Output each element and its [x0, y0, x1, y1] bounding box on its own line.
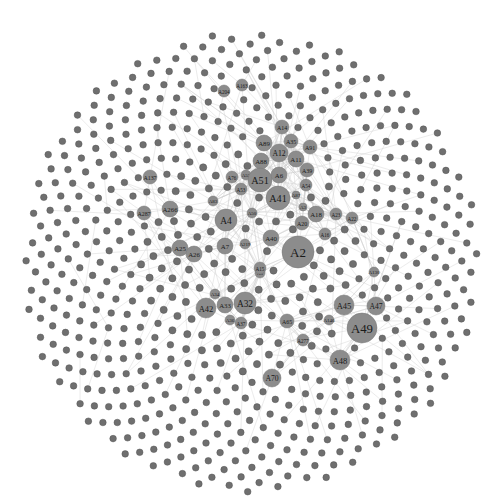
- graph-node-a11[interactable]: A11: [288, 151, 304, 167]
- graph-node[interactable]: [361, 374, 368, 381]
- graph-node[interactable]: [178, 173, 185, 180]
- graph-node[interactable]: [418, 343, 425, 350]
- graph-node-a34[interactable]: A34: [210, 289, 220, 299]
- graph-node-a219[interactable]: A219: [239, 239, 251, 249]
- graph-node[interactable]: [180, 43, 187, 50]
- graph-node[interactable]: [124, 311, 131, 318]
- graph-node[interactable]: [275, 102, 282, 109]
- graph-node[interactable]: [357, 157, 364, 164]
- graph-node[interactable]: [224, 183, 231, 190]
- graph-node[interactable]: [284, 447, 291, 454]
- graph-node[interactable]: [105, 356, 112, 363]
- graph-node[interactable]: [247, 41, 254, 48]
- graph-node[interactable]: [246, 118, 253, 125]
- graph-node[interactable]: [211, 85, 218, 92]
- graph-node[interactable]: [322, 197, 329, 204]
- graph-node[interactable]: [157, 95, 164, 102]
- graph-node[interactable]: [387, 200, 394, 207]
- graph-node[interactable]: [105, 325, 112, 332]
- graph-node[interactable]: [416, 283, 423, 290]
- graph-node[interactable]: [328, 256, 335, 263]
- graph-node[interactable]: [65, 166, 72, 173]
- graph-node[interactable]: [342, 162, 349, 169]
- graph-node[interactable]: [389, 170, 396, 177]
- graph-node[interactable]: [179, 417, 186, 424]
- graph-node[interactable]: [148, 297, 155, 304]
- graph-node[interactable]: [383, 215, 390, 222]
- graph-node[interactable]: [97, 259, 104, 266]
- graph-node[interactable]: [37, 315, 44, 322]
- graph-node[interactable]: [425, 269, 432, 276]
- graph-node[interactable]: [166, 424, 173, 431]
- graph-node[interactable]: [246, 417, 253, 424]
- graph-node[interactable]: [47, 207, 54, 214]
- graph-node[interactable]: [335, 82, 342, 89]
- graph-node[interactable]: [84, 386, 91, 393]
- graph-node[interactable]: [359, 292, 366, 299]
- graph-node-a23[interactable]: A23: [330, 208, 342, 220]
- graph-node[interactable]: [467, 221, 474, 228]
- graph-node[interactable]: [97, 292, 104, 299]
- graph-node[interactable]: [158, 155, 165, 162]
- graph-node[interactable]: [108, 186, 115, 193]
- graph-node[interactable]: [203, 440, 210, 447]
- graph-node-a32[interactable]: A32: [234, 292, 256, 314]
- graph-node[interactable]: [456, 212, 463, 219]
- graph-node[interactable]: [384, 295, 391, 302]
- graph-node[interactable]: [178, 454, 185, 461]
- graph-node[interactable]: [121, 325, 128, 332]
- graph-node[interactable]: [256, 479, 263, 486]
- graph-node[interactable]: [228, 125, 235, 132]
- graph-node[interactable]: [429, 214, 436, 221]
- graph-node[interactable]: [296, 420, 303, 427]
- graph-node[interactable]: [424, 319, 431, 326]
- graph-node[interactable]: [104, 278, 111, 285]
- graph-node[interactable]: [275, 483, 282, 490]
- graph-node[interactable]: [191, 409, 198, 416]
- graph-node[interactable]: [253, 104, 260, 111]
- graph-node[interactable]: [349, 459, 356, 466]
- graph-node[interactable]: [361, 226, 368, 233]
- graph-node[interactable]: [321, 141, 328, 148]
- graph-node-a146[interactable]: A146: [323, 315, 335, 325]
- graph-node[interactable]: [119, 283, 126, 290]
- graph-node[interactable]: [473, 251, 480, 258]
- graph-node[interactable]: [349, 260, 356, 267]
- graph-node[interactable]: [196, 481, 203, 488]
- graph-node[interactable]: [82, 169, 89, 176]
- graph-node[interactable]: [54, 288, 61, 295]
- graph-node[interactable]: [411, 382, 418, 389]
- graph-node[interactable]: [154, 110, 161, 117]
- graph-node[interactable]: [184, 142, 191, 149]
- graph-node[interactable]: [315, 408, 322, 415]
- graph-node[interactable]: [319, 106, 326, 113]
- graph-node[interactable]: [91, 102, 98, 109]
- graph-node[interactable]: [258, 32, 265, 39]
- graph-node[interactable]: [95, 195, 102, 202]
- graph-node[interactable]: [126, 88, 133, 95]
- graph-node[interactable]: [111, 80, 118, 87]
- graph-node[interactable]: [76, 141, 83, 148]
- graph-node[interactable]: [105, 403, 112, 410]
- graph-node[interactable]: [259, 74, 266, 81]
- graph-node[interactable]: [389, 90, 396, 97]
- graph-node[interactable]: [238, 429, 245, 436]
- graph-node[interactable]: [54, 219, 61, 226]
- graph-node[interactable]: [200, 164, 207, 171]
- graph-node[interactable]: [452, 275, 459, 282]
- graph-node[interactable]: [253, 361, 260, 368]
- graph-node[interactable]: [351, 345, 358, 352]
- graph-node[interactable]: [323, 474, 330, 481]
- graph-node[interactable]: [207, 375, 214, 382]
- graph-node[interactable]: [302, 374, 309, 381]
- graph-node[interactable]: [309, 94, 316, 101]
- graph-node[interactable]: [276, 39, 283, 46]
- graph-node[interactable]: [240, 97, 247, 104]
- graph-node[interactable]: [190, 96, 197, 103]
- graph-node-a22[interactable]: A22: [346, 212, 358, 224]
- graph-node[interactable]: [182, 298, 189, 305]
- graph-node[interactable]: [184, 331, 191, 338]
- graph-node[interactable]: [285, 473, 292, 480]
- graph-node[interactable]: [169, 124, 176, 131]
- graph-node[interactable]: [263, 248, 270, 255]
